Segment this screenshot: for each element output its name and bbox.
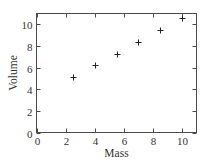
- x-axis-ticks: 0246810: [35, 14, 189, 147]
- x-tick-label: 8: [151, 135, 157, 147]
- plot-frame: [37, 14, 197, 133]
- x-tick-label: 4: [93, 135, 99, 147]
- data-point: [136, 40, 142, 46]
- data-point: [115, 52, 121, 58]
- y-tick-label: 2: [27, 106, 33, 118]
- x-axis-label: Mass: [104, 147, 129, 159]
- y-tick-label: 6: [27, 63, 33, 75]
- x-tick-label: 2: [64, 135, 70, 147]
- data-point: [158, 28, 164, 34]
- y-axis-ticks: 0246810: [22, 19, 197, 140]
- y-axis-label: Volume: [7, 55, 19, 91]
- data-point: [180, 16, 186, 22]
- y-tick-label: 10: [22, 19, 34, 31]
- x-tick-label: 10: [177, 135, 189, 147]
- x-tick-label: 6: [122, 135, 128, 147]
- data-point: [93, 63, 99, 69]
- scatter-chart: 0246810 0246810 Mass Volume: [0, 0, 204, 167]
- y-tick-label: 0: [27, 128, 33, 140]
- x-tick-label: 0: [35, 135, 41, 147]
- data-point: [71, 75, 77, 81]
- y-tick-label: 4: [27, 84, 33, 96]
- y-tick-label: 8: [27, 41, 33, 53]
- data-points: [71, 16, 186, 81]
